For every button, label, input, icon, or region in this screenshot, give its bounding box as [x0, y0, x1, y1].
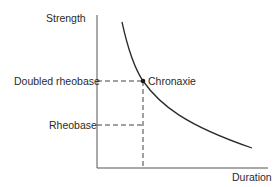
- doubled-rheobase-label: Doubled rheobase: [14, 75, 100, 87]
- x-axis-label: Duration: [232, 171, 272, 183]
- chronaxie-label: Chronaxie: [148, 75, 196, 87]
- y-axis-label: Strength: [46, 12, 86, 24]
- chronaxie-point: [141, 79, 146, 84]
- strength-duration-plot: [0, 0, 273, 187]
- rheobase-label: Rheobase: [49, 119, 97, 131]
